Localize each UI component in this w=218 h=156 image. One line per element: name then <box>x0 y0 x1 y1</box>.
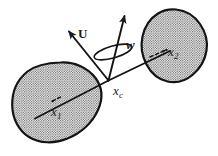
u-vector-label-text: U <box>78 26 87 41</box>
u-vector-label: U <box>78 27 87 40</box>
w-vector-label: w <box>126 38 135 51</box>
left-body <box>12 62 101 142</box>
left-body-shape <box>12 62 101 142</box>
center-point-label-text: x <box>113 83 119 98</box>
left-body-label-text: x <box>51 104 57 119</box>
diagram-svg <box>0 0 218 156</box>
center-point-label: xc <box>113 84 123 100</box>
figure-canvas: U w xc x1 x2 <box>0 0 218 156</box>
right-body-label-subscript: 2 <box>174 51 179 61</box>
w-vector-label-text: w <box>126 37 135 52</box>
w-arrow-shaft <box>109 16 125 81</box>
x1-center-dot <box>51 100 53 102</box>
right-body-label-text: x <box>168 44 174 59</box>
w-arrow <box>109 16 125 81</box>
left-body-label: x1 <box>51 105 61 121</box>
right-body-label: x2 <box>168 45 178 61</box>
left-body-label-subscript: 1 <box>57 111 62 121</box>
center-point-label-subscript: c <box>119 90 123 100</box>
